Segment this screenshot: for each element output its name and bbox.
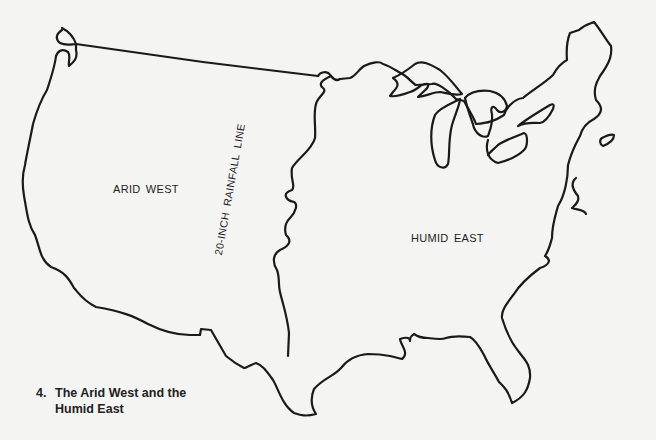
lake-ontario — [518, 104, 554, 126]
caption-line-2: Humid East — [55, 401, 124, 417]
us-border-outline — [23, 22, 612, 416]
lake-michigan — [431, 99, 460, 167]
figure-number: 4. — [36, 385, 46, 401]
region-label-humid-east: HUMID EAST — [411, 232, 484, 244]
us-outline-map — [0, 0, 656, 440]
long-island — [600, 135, 614, 146]
lake-erie — [487, 133, 527, 163]
puget-sound — [62, 28, 76, 44]
region-label-arid-west: ARID WEST — [113, 183, 179, 195]
rainfall-line-20-inch — [274, 76, 331, 356]
lake-superior — [390, 62, 462, 97]
chesapeake-bay — [572, 178, 586, 214]
caption-line-1: The Arid West and the — [55, 385, 186, 401]
